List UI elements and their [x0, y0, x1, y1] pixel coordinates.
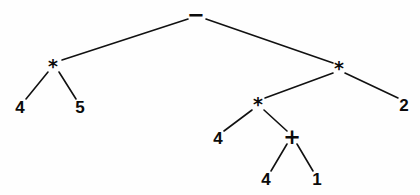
tree-node-operand: 5: [75, 99, 84, 116]
tree-edge: [206, 19, 333, 63]
tree-node-operand: 4: [15, 99, 24, 116]
expression-tree-diagram: −**45*24+41: [0, 0, 420, 195]
tree-node-operator: *: [48, 57, 58, 76]
tree-edge: [59, 72, 76, 99]
tree-edge: [26, 72, 48, 99]
tree-edge: [345, 73, 398, 98]
tree-node-operator: +: [283, 127, 301, 148]
tree-node-operator: −: [187, 5, 205, 26]
tree-edges-layer: [0, 0, 420, 195]
tree-node-operator: *: [334, 59, 344, 78]
tree-edge: [224, 110, 252, 131]
tree-node-operator: *: [253, 95, 263, 114]
tree-node-operand: 4: [261, 171, 270, 188]
tree-edge: [265, 73, 333, 98]
tree-edge: [62, 19, 188, 60]
tree-node-operand: 1: [312, 171, 321, 188]
tree-node-operand: 2: [399, 97, 408, 114]
tree-node-operand: 4: [213, 130, 222, 147]
